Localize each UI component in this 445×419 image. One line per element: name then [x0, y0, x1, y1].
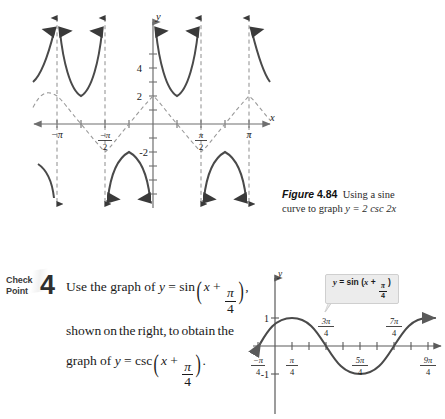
cp-line3-pre: graph of — [66, 353, 115, 368]
check-point-block: Check Point 4 Use the graph of y = sin(x… — [6, 272, 234, 364]
bottom-ytick-neg1: -1 — [261, 369, 269, 380]
cp-line2-w4: to — [169, 316, 180, 346]
cp-line3-fraction: π4 — [182, 360, 193, 389]
svg-text:2: 2 — [103, 142, 108, 152]
cp-line1-lhs: y — [159, 279, 165, 294]
cp-line3-frac-num: π — [182, 360, 193, 374]
svg-text:7π: 7π — [390, 316, 399, 326]
bottom-xtick-3pi-4: 3π 4 — [318, 316, 334, 338]
cp-line3-fn: csc — [135, 353, 152, 368]
cp-line2-w6: the — [217, 316, 234, 346]
cp-line1-frac-den: 4 — [225, 301, 236, 316]
check-point-line-1: Use the graph of y = sin(x + π4), — [66, 272, 234, 316]
figure-caption-number: 4.84 — [317, 188, 337, 200]
svg-text:4: 4 — [358, 367, 363, 377]
check-point-word-point: Point — [6, 286, 28, 296]
figure-top-ytick-4: 4 — [137, 63, 143, 74]
svg-text:π: π — [199, 130, 204, 140]
cp-line2-w0: shown — [66, 316, 101, 346]
cp-line1-pre: Use the graph of — [66, 279, 159, 294]
bottom-ytick-1: 1 — [264, 313, 269, 324]
cp-line1-fraction: π4 — [225, 286, 236, 315]
cp-line1-fn: sin — [179, 279, 195, 294]
check-point-badge: Check Point 4 — [6, 274, 64, 308]
figure-caption-line2: curve to graph — [282, 203, 345, 214]
figure-caption-equation: y = 2 csc 2x — [345, 203, 396, 214]
check-point-line-3: graph of y = csc(x + π4). — [66, 346, 234, 390]
cp-line3-frac-den: 4 — [182, 374, 193, 389]
bottom-xtick-9pi-4: 9π 4 — [420, 355, 436, 377]
figure-4-84-svg: y x 2 4 -2 −π −π 2 π 2 π — [30, 8, 278, 213]
callout-frac-den: 4 — [379, 291, 387, 300]
cp-line3-tail: . — [203, 353, 206, 368]
callout-rel: = — [339, 277, 344, 287]
bottom-xtick-7pi-4: 7π 4 — [386, 316, 402, 338]
callout-fn: sin — [347, 277, 359, 287]
svg-text:π: π — [290, 355, 295, 365]
figure-top-y-axis-label: y — [155, 11, 161, 22]
cp-line3-var: x — [161, 353, 167, 368]
figure-top-xtick-pi: π — [246, 129, 252, 140]
svg-text:4: 4 — [290, 367, 295, 377]
svg-text:5π: 5π — [356, 355, 365, 365]
cp-line3-op: + — [170, 353, 178, 368]
callout-var: x — [364, 277, 368, 287]
cp-line2-w1: on — [103, 316, 117, 346]
svg-text:9π: 9π — [424, 355, 433, 365]
figure-caption: Figure 4.84 Using a sine curve to graph … — [282, 188, 440, 216]
figure-top-x-axis-label: x — [269, 112, 275, 123]
cp-line2-w3: right, — [138, 316, 167, 346]
sine-equation-callout: y = sin (x + π4) — [325, 274, 399, 304]
callout-fraction: π4 — [379, 283, 387, 299]
cp-line2-w5: obtain — [182, 316, 216, 346]
check-point-text: Use the graph of y = sin(x + π4), shown … — [66, 272, 234, 389]
svg-text:−π: −π — [253, 355, 264, 365]
cp-line3-rel: = — [124, 353, 132, 368]
svg-text:4: 4 — [392, 328, 397, 338]
bottom-y-axis-label: y — [277, 269, 283, 279]
check-point-word-check: Check — [6, 275, 33, 285]
cp-line2-w2: the — [119, 316, 136, 346]
callout-paren-close: ) — [388, 277, 391, 287]
cp-line1-var: x — [204, 279, 210, 294]
svg-text:4: 4 — [324, 328, 329, 338]
bottom-xtick-pi-4: π 4 — [286, 355, 298, 377]
cp-line1-rel: = — [168, 279, 176, 294]
figure-caption-label: Figure — [282, 188, 314, 200]
guide-sine-curve — [33, 93, 270, 152]
svg-text:3π: 3π — [321, 316, 331, 326]
cp-line1-op: + — [213, 279, 221, 294]
figure-4-84-graph: y x 2 4 -2 −π −π 2 π 2 π — [30, 8, 278, 213]
cosecant-branches — [33, 32, 270, 198]
cp-line1-frac-num: π — [225, 286, 236, 300]
callout-op: + — [371, 277, 376, 287]
figure-top-xtick-neg-pi: −π — [51, 129, 64, 140]
svg-text:2: 2 — [199, 142, 204, 152]
svg-text:−π: −π — [100, 130, 111, 140]
callout-frac-num: π — [379, 283, 387, 291]
figure-top-ytick-2: 2 — [137, 91, 142, 102]
check-point-words: Check Point — [6, 275, 33, 297]
checkpoint-sine-graph: y 1 -1 −π 4 π 4 5π 4 9π 4 3π 4 — [245, 268, 445, 416]
figure-caption-line1: Using a sine — [343, 189, 395, 200]
callout-lhs: y — [333, 277, 337, 287]
check-point-line-2: shown on the right, to obtain the — [66, 316, 234, 346]
svg-text:4: 4 — [426, 367, 431, 377]
figure-top-ytick-neg2: -2 — [139, 147, 148, 158]
cp-line3-lhs: y — [115, 353, 121, 368]
check-point-number: 4 — [40, 270, 55, 301]
